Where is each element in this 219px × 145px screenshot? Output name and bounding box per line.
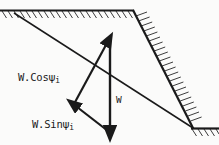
crest-hatching	[2, 11, 133, 18]
tangential-component-arrow	[77, 107, 108, 131]
toe-ground-surface	[191, 129, 219, 137]
normal-component-label-text: W.Cos	[18, 71, 49, 83]
normal-component-label: W.Cosψi	[18, 72, 60, 85]
slope-stability-figure: W.Cosψi W.Sinψi W	[0, 0, 219, 145]
weight-label: W	[116, 95, 122, 105]
toe-hatching	[192, 129, 219, 136]
tangential-component-label: W.Sinψi	[32, 119, 74, 132]
normal-component-arrow	[74, 44, 107, 104]
tangential-component-label-text: W.Sin	[32, 118, 63, 130]
normal-component-subscript: i	[55, 76, 60, 85]
slope-face-hatching	[136, 12, 202, 121]
tangential-component-subscript: i	[69, 123, 74, 132]
